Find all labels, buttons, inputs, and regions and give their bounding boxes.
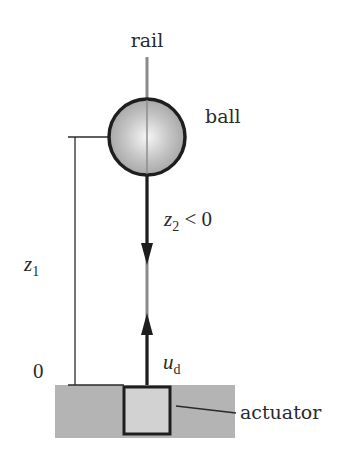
z1-label: z1 (23, 252, 39, 279)
ball-label: ball (205, 105, 241, 127)
zero-label: 0 (33, 359, 44, 383)
z1-sub: 1 (32, 264, 39, 279)
z2-var: z (163, 207, 172, 231)
rail-label: rail (131, 29, 164, 51)
z2-arrow-head (141, 243, 153, 265)
actuator-label: actuator (240, 401, 322, 423)
z2-sub: 2 (172, 219, 179, 234)
ball-and-rail-diagram: rail ball z2 < 0 z1 0 ud actuator (0, 0, 362, 456)
actuator-box (124, 387, 170, 434)
ud-label: ud (163, 350, 181, 377)
ud-var: u (163, 350, 174, 374)
ud-sub: d (174, 362, 181, 377)
z2-label: z2 < 0 (163, 207, 212, 234)
z2-relation: < 0 (179, 207, 212, 231)
z1-var: z (23, 252, 32, 276)
ud-arrow-head (141, 313, 153, 335)
